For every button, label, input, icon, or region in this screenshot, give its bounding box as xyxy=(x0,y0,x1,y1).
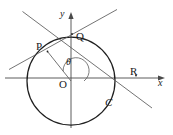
label-origin-o: O xyxy=(59,79,67,90)
label-angle-theta: θ xyxy=(66,57,71,67)
geometry-figure: P Q R O C y x θ xyxy=(0,0,173,135)
label-point-p: P xyxy=(36,41,42,52)
label-point-r: R xyxy=(130,66,137,77)
label-axis-x: x xyxy=(158,78,162,88)
point-marker-Q xyxy=(71,33,73,35)
y-axis xyxy=(68,12,73,128)
point-marker-P xyxy=(47,51,49,53)
label-axis-y: y xyxy=(60,9,64,19)
label-point-q: Q xyxy=(76,31,84,42)
label-circle-c: C xyxy=(105,97,112,108)
figure-canvas xyxy=(0,0,173,135)
